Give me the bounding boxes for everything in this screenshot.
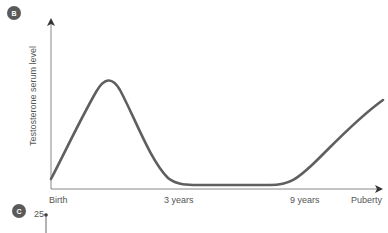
x-tick-3-years: 3 years [164, 195, 194, 205]
panel-badge-c-label: C [16, 208, 21, 215]
panel-badge-c: C [12, 204, 26, 218]
x-tick-9-years: 9 years [290, 195, 320, 205]
testosterone-curve [51, 80, 383, 185]
x-tick-puberty: Puberty [351, 195, 382, 205]
c-tick-label-25: 25 [34, 209, 44, 219]
x-tick-birth: Birth [49, 195, 68, 205]
y-axis-label: Testosterone serum level [28, 46, 38, 146]
